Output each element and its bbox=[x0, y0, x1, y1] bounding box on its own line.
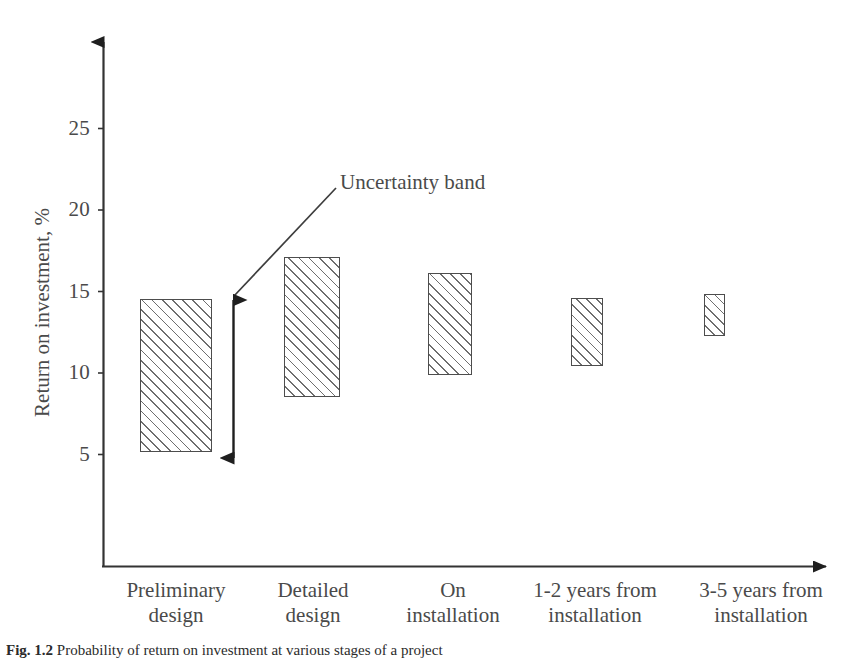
figure-caption-label: Fig. 1.2 bbox=[6, 642, 53, 658]
bar-3-5-years-from-installation bbox=[704, 294, 725, 336]
x-tick-line-1: Detailed bbox=[243, 578, 383, 603]
x-tick-line-2: installation bbox=[678, 603, 844, 628]
bar-detailed-design bbox=[284, 257, 340, 397]
x-tick-label-on-installation: On installation bbox=[383, 578, 523, 628]
chart-plot-area: Return on investment, % 25 20 15 10 5 Un… bbox=[0, 0, 861, 659]
bar-preliminary-design bbox=[140, 299, 212, 452]
x-tick-label-1-2-years-from-installation: 1-2 years from installation bbox=[512, 578, 678, 628]
y-tick-label-25: 25 bbox=[46, 118, 90, 139]
y-tick-label-10: 10 bbox=[46, 362, 90, 383]
figure-caption-text: Probability of return on investment at v… bbox=[57, 642, 443, 658]
y-tick-label-5: 5 bbox=[46, 444, 90, 465]
y-tick-label-20: 20 bbox=[46, 199, 90, 220]
x-tick-label-preliminary-design: Preliminary design bbox=[96, 578, 256, 628]
bar-on-installation bbox=[428, 273, 472, 375]
x-tick-line-1: 1-2 years from bbox=[512, 578, 678, 603]
x-tick-line-1: Preliminary bbox=[96, 578, 256, 603]
x-tick-label-detailed-design: Detailed design bbox=[243, 578, 383, 628]
bar-1-2-years-from-installation bbox=[571, 298, 603, 366]
annotation-uncertainty-band: Uncertainty band bbox=[340, 170, 485, 194]
y-axis-ticks bbox=[98, 129, 104, 455]
x-tick-line-2: design bbox=[96, 603, 256, 628]
x-tick-line-1: On bbox=[383, 578, 523, 603]
x-tick-label-3-5-years-from-installation: 3-5 years from installation bbox=[678, 578, 844, 628]
figure-container: Return on investment, % 25 20 15 10 5 Un… bbox=[0, 0, 861, 659]
y-tick-label-15: 15 bbox=[46, 281, 90, 302]
x-tick-line-2: installation bbox=[383, 603, 523, 628]
x-tick-line-2: design bbox=[243, 603, 383, 628]
x-tick-line-2: installation bbox=[512, 603, 678, 628]
x-tick-line-1: 3-5 years from bbox=[678, 578, 844, 603]
figure-caption: Fig. 1.2 Probability of return on invest… bbox=[6, 641, 856, 659]
